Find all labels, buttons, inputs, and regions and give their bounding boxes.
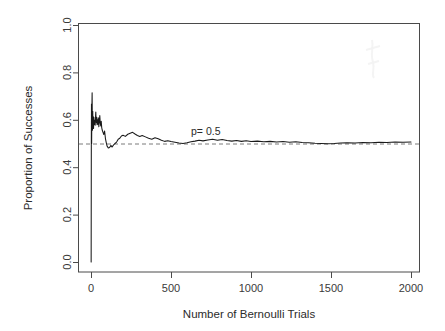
y-tick-label: 0.6: [61, 112, 73, 127]
x-tick-label: 2000: [399, 282, 423, 294]
p-value-annotation: p= 0.5: [191, 125, 221, 137]
chart-figure: 0.00.20.40.60.81.0 0500100015002000 p= 0…: [0, 0, 445, 331]
x-axis-title: Number of Bernoulli Trials: [183, 308, 316, 320]
y-axis-title: Proportion of Successes: [22, 85, 34, 210]
y-tick-label: 0.8: [61, 65, 73, 80]
y-tick-label: 0.4: [61, 160, 73, 175]
x-tick-label: 0: [88, 282, 94, 294]
y-tick-label: 0.2: [61, 207, 73, 222]
x-tick-label: 1500: [319, 282, 343, 294]
x-tick-label: 500: [162, 282, 180, 294]
proportion-of-successes-line-chart: 0.00.20.40.60.81.0 0500100015002000 p= 0…: [0, 0, 445, 331]
y-tick-label: 1.0: [61, 17, 73, 32]
x-tick-label: 1000: [239, 282, 263, 294]
y-tick-label: 0.0: [61, 254, 73, 269]
